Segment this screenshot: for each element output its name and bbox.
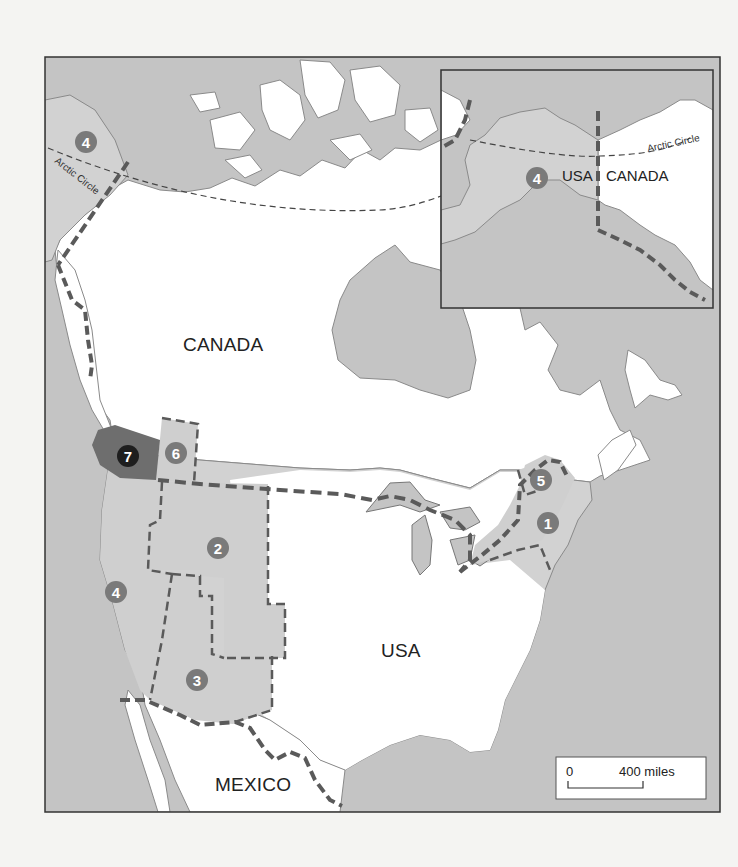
svg-text:3: 3 <box>193 672 201 689</box>
scale-end-label: 400 miles <box>619 764 675 779</box>
marker-3[interactable]: 3 <box>186 669 208 691</box>
svg-text:4: 4 <box>112 584 121 601</box>
scale-start-label: 0 <box>566 764 573 779</box>
scale-bar: 0 400 miles <box>556 757 706 799</box>
map: 0 400 miles Arctic Circle USA CANADA 4 <box>0 0 738 867</box>
marker-2[interactable]: 2 <box>207 537 229 559</box>
marker-4-inset-label: 4 <box>533 170 542 187</box>
marker-5[interactable]: 5 <box>530 469 552 491</box>
svg-text:2: 2 <box>214 540 222 557</box>
inset-usa-label: USA <box>562 167 593 184</box>
marker-7[interactable]: 7 <box>117 445 139 467</box>
inset-canada-label: CANADA <box>606 167 669 184</box>
svg-text:6: 6 <box>172 445 180 462</box>
marker-1[interactable]: 1 <box>537 512 559 534</box>
svg-text:5: 5 <box>537 472 545 489</box>
svg-text:7: 7 <box>124 448 132 465</box>
marker-4-west[interactable]: 4 <box>105 581 127 603</box>
mexico-label: MEXICO <box>215 774 291 795</box>
canada-label: CANADA <box>183 334 264 355</box>
usa-label: USA <box>381 640 421 661</box>
svg-text:1: 1 <box>544 515 552 532</box>
svg-text:4: 4 <box>82 134 91 151</box>
alaska-inset: Arctic Circle USA CANADA 4 <box>441 70 713 308</box>
marker-4-main[interactable]: 4 <box>75 131 97 153</box>
marker-6[interactable]: 6 <box>165 442 187 464</box>
